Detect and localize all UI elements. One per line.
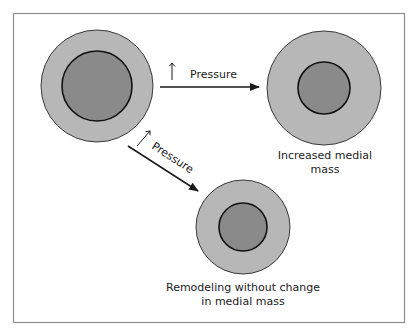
arterial-remodeling-diagram: Pressure Increased medial mass Pressure … [0, 0, 420, 332]
increased-medial-caption-line1: Increased medial [278, 149, 372, 162]
remodeling-caption-line1: Remodeling without change [166, 281, 320, 294]
increased-medial-caption-line2: mass [311, 163, 340, 176]
vessel-baseline-inner-core [62, 51, 132, 121]
vessel-baseline [41, 30, 153, 142]
horizontal-pressure-label: Pressure [190, 68, 237, 81]
remodeling-caption-line2: in medial mass [201, 295, 285, 308]
vessel-increased-medial-mass: Increased medial mass [267, 31, 381, 176]
vessel-remodeling-inner-core [219, 203, 267, 251]
vessel-increased-inner-core [298, 62, 350, 114]
